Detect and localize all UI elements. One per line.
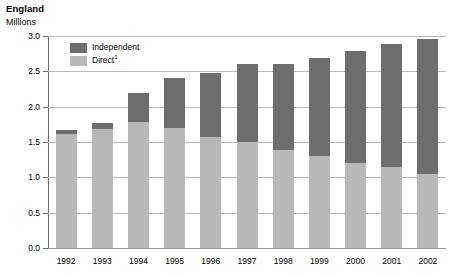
- y-axis-tick-label: 2.0: [0, 102, 40, 112]
- legend-swatch-direct-icon: [70, 56, 87, 66]
- y-axis-tick-label: 0.0: [0, 243, 40, 253]
- y-axis-tick-label: 2.5: [0, 66, 40, 76]
- x-axis-tick-label: 1998: [265, 256, 301, 266]
- x-axis-line: [48, 248, 446, 249]
- x-axis-tick-label: 1996: [193, 256, 229, 266]
- x-axis-tick-label: 1995: [157, 256, 193, 266]
- x-axis-tick-label: 2002: [410, 256, 446, 266]
- bar-segment-direct[interactable]: [417, 174, 438, 248]
- legend-label-direct: Direct1: [92, 55, 118, 65]
- bar-segment-independent[interactable]: [128, 93, 149, 123]
- bar-segment-independent[interactable]: [200, 73, 221, 137]
- x-axis-tick-label: 1993: [84, 256, 120, 266]
- y-axis-tick-mark: [43, 36, 48, 37]
- legend-label-direct-text: Direct: [92, 55, 114, 65]
- bar-segment-independent[interactable]: [237, 64, 258, 142]
- legend-swatch-independent-icon: [70, 43, 87, 53]
- bar-segment-independent[interactable]: [273, 64, 294, 150]
- y-axis-tick-label: 1.5: [0, 137, 40, 147]
- x-axis-tick-label: 1992: [48, 256, 84, 266]
- x-axis-tick-label: 1994: [120, 256, 156, 266]
- x-axis-tick-label: 2000: [337, 256, 373, 266]
- y-axis-tick-label: 1.0: [0, 172, 40, 182]
- bar-segment-direct[interactable]: [309, 156, 330, 248]
- x-axis-tick-label: 1997: [229, 256, 265, 266]
- bar-segment-direct[interactable]: [273, 150, 294, 248]
- bar-stack[interactable]: [56, 36, 77, 248]
- bar-segment-independent[interactable]: [309, 58, 330, 156]
- y-axis-tick-mark: [43, 177, 48, 178]
- bar-stack[interactable]: [417, 36, 438, 248]
- bar-segment-direct[interactable]: [381, 167, 402, 248]
- chart-units-label: Millions: [6, 17, 36, 27]
- bar-stack[interactable]: [164, 36, 185, 248]
- y-axis-tick-label: 3.0: [0, 31, 40, 41]
- bar-segment-direct[interactable]: [237, 142, 258, 248]
- y-axis-tick-mark: [43, 142, 48, 143]
- x-axis-tick-label: 2001: [374, 256, 410, 266]
- chart-page: England Millions Independent Direct1 0.0…: [0, 0, 452, 276]
- bar-stack[interactable]: [345, 36, 366, 248]
- y-axis-tick-label: 0.5: [0, 208, 40, 218]
- y-axis-tick-mark: [43, 107, 48, 108]
- bar-segment-direct[interactable]: [345, 163, 366, 249]
- legend-label-independent: Independent: [92, 42, 139, 52]
- bar-stack[interactable]: [128, 36, 149, 248]
- bar-segment-independent[interactable]: [92, 123, 113, 129]
- bar-stack[interactable]: [273, 36, 294, 248]
- y-axis-tick-mark: [43, 248, 48, 249]
- bar-segment-independent[interactable]: [56, 130, 77, 134]
- plot-area: [48, 36, 446, 248]
- bar-segment-direct[interactable]: [128, 122, 149, 248]
- bar-segment-independent[interactable]: [345, 51, 366, 163]
- bar-stack[interactable]: [381, 36, 402, 248]
- bar-stack[interactable]: [92, 36, 113, 248]
- bar-segment-direct[interactable]: [92, 129, 113, 248]
- x-axis-tick-label: 1999: [301, 256, 337, 266]
- y-axis-tick-mark: [43, 71, 48, 72]
- bar-segment-direct[interactable]: [200, 137, 221, 248]
- y-axis-tick-mark: [43, 213, 48, 214]
- bar-segment-independent[interactable]: [381, 44, 402, 167]
- bar-segment-independent[interactable]: [164, 78, 185, 127]
- legend-footnote-marker: 1: [114, 54, 117, 60]
- bar-stack[interactable]: [200, 36, 221, 248]
- bar-segment-direct[interactable]: [56, 134, 77, 248]
- bar-segment-independent[interactable]: [417, 39, 438, 174]
- bar-stack[interactable]: [237, 36, 258, 248]
- page-title: England: [6, 3, 44, 14]
- bar-segment-direct[interactable]: [164, 128, 185, 248]
- bar-stack[interactable]: [309, 36, 330, 248]
